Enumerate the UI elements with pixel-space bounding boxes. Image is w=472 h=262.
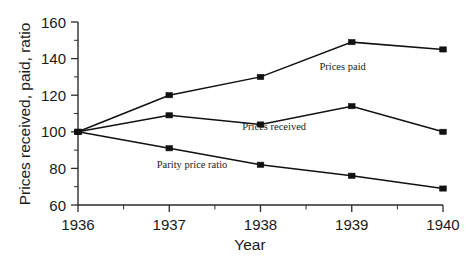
y-tick-label-160: 160	[41, 14, 66, 31]
data-point-marker	[440, 186, 447, 191]
series-annotation-prices-received: Prices received	[242, 121, 307, 132]
x-axis-title: Year	[234, 236, 265, 253]
series-annotation-parity-price-ratio: Parity price ratio	[157, 159, 228, 170]
x-tick-label-1938: 1938	[244, 216, 277, 233]
y-tick-label-140: 140	[41, 50, 66, 67]
data-point-marker	[348, 104, 355, 109]
y-tick-label-80: 80	[49, 160, 66, 177]
y-tick-label-60: 60	[49, 197, 66, 214]
data-point-marker	[166, 146, 173, 151]
x-tick-label-1939: 1939	[335, 216, 368, 233]
data-point-marker	[166, 93, 173, 98]
data-point-marker	[440, 129, 447, 134]
y-tick-label-100: 100	[41, 123, 66, 140]
x-tick-label-1937: 1937	[153, 216, 186, 233]
x-tick-label-1936: 1936	[61, 216, 94, 233]
y-axis-title: Prices received, paid, ratio	[16, 23, 33, 206]
data-point-marker	[440, 47, 447, 52]
data-point-marker	[75, 129, 82, 134]
y-tick-label-120: 120	[41, 87, 66, 104]
data-point-marker	[348, 40, 355, 45]
line-chart: 160 140 120 100 80 60 1936 1937 1938 193…	[0, 0, 472, 262]
x-tick-label-1940: 1940	[426, 216, 459, 233]
data-point-marker	[257, 74, 264, 79]
chart-container: 160 140 120 100 80 60 1936 1937 1938 193…	[0, 0, 472, 262]
data-point-marker	[257, 162, 264, 167]
series-annotation-prices-paid: Prices paid	[319, 61, 366, 72]
data-point-marker	[348, 173, 355, 178]
data-point-marker	[166, 113, 173, 118]
